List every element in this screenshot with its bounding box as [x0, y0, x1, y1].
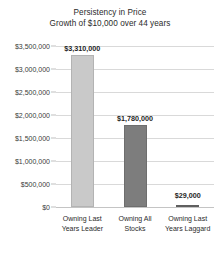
bar-owning-last-years-leader — [71, 55, 94, 207]
data-label: $1,780,000 — [117, 114, 153, 123]
y-axis-tick-label: $3,500,000 — [0, 43, 50, 50]
bar-owning-all-stocks — [124, 125, 147, 207]
bar-owning-last-years-laggard — [176, 205, 199, 207]
chart-title-block: Persistency in Price Growth of $10,000 o… — [0, 7, 220, 29]
y-axis-tick-label: $2,500,000 — [0, 89, 50, 96]
y-axis-tick-label: $500,000 — [0, 181, 50, 188]
y-axis-tick-label: $1,000,000 — [0, 158, 50, 165]
plot-area — [56, 46, 214, 207]
y-axis-tick-label: $2,000,000 — [0, 112, 50, 119]
data-label: $3,310,000 — [64, 44, 100, 53]
data-label: $29,000 — [175, 191, 201, 200]
y-axis-tick-label: $3,000,000 — [0, 66, 50, 73]
axis-baseline — [56, 207, 214, 208]
chart-title: Persistency in Price — [0, 7, 220, 18]
bar-chart: Persistency in Price Growth of $10,000 o… — [0, 0, 220, 257]
x-axis-category-line: Years Laggard — [157, 224, 219, 234]
x-axis-category-line: Owning Last — [157, 214, 219, 224]
x-axis-category-label: Owning LastYears Laggard — [157, 214, 219, 233]
chart-subtitle: Growth of $10,000 over 44 years — [0, 18, 220, 29]
y-axis-tick-label: $1,500,000 — [0, 135, 50, 142]
y-axis-tick-label: $0 — [0, 204, 50, 211]
